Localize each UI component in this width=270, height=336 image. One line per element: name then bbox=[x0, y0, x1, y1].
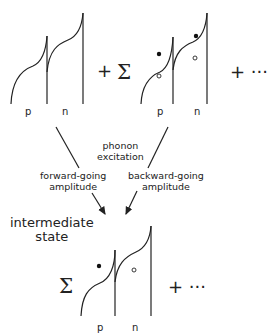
hole-circle bbox=[132, 268, 136, 272]
backward-going-label: backward-going amplitude bbox=[128, 170, 204, 192]
plus-ellipsis: + ··· bbox=[230, 63, 268, 81]
particle-dot bbox=[157, 52, 161, 56]
particle-dot bbox=[97, 264, 101, 268]
label-n: n bbox=[132, 322, 138, 333]
proton-line-curve bbox=[11, 36, 47, 104]
intermediate-state-label: intermediate state bbox=[10, 216, 94, 244]
neutron-line-curve bbox=[47, 13, 83, 72]
particle-dot bbox=[194, 34, 198, 38]
plus-ellipsis: + ··· bbox=[168, 278, 206, 296]
label-p: p bbox=[25, 106, 31, 117]
label-n: n bbox=[62, 106, 68, 117]
sum-symbol: Σ bbox=[117, 62, 131, 82]
sum-symbol: Σ bbox=[59, 276, 73, 296]
hole-circle bbox=[157, 74, 161, 78]
phonon-excitation-label: phonon excitation bbox=[97, 140, 144, 162]
diagram-canvas: p n + Σ p n + ··· phonon excitation forw… bbox=[0, 0, 270, 336]
plus-sign: + bbox=[97, 62, 112, 80]
forward-going-label: forward-going amplitude bbox=[40, 170, 106, 192]
label-p: p bbox=[157, 106, 163, 117]
label-n: n bbox=[194, 106, 200, 117]
label-p: p bbox=[97, 322, 103, 333]
hole-circle bbox=[193, 56, 197, 60]
diagram-lines bbox=[0, 0, 270, 336]
